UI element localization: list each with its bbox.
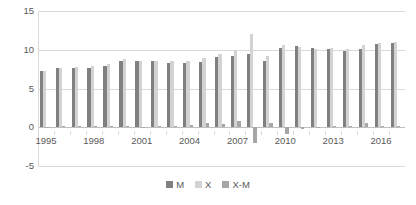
bar-x — [394, 42, 397, 127]
bar-x — [170, 61, 173, 127]
bar-dif — [46, 127, 49, 128]
x-tick-mark — [214, 131, 215, 135]
x-tick-mark — [389, 131, 390, 135]
x-axis-labels: 19951998200120042007201020132016 — [38, 136, 405, 152]
bar-dif — [206, 123, 209, 128]
legend-label: X-M — [232, 180, 249, 190]
bar-x — [186, 61, 189, 128]
bar-x — [234, 50, 237, 128]
x-tick-label-2007: 2007 — [227, 136, 248, 146]
legend-item-m[interactable]: M — [166, 180, 184, 190]
x-tick-mark — [198, 131, 199, 135]
y-tick-label-15: 15 — [4, 6, 34, 16]
bar-dif — [237, 121, 240, 127]
x-tick-label-2001: 2001 — [131, 136, 152, 146]
bar-x — [330, 48, 333, 127]
x-tick-mark — [341, 131, 342, 135]
x-tick-label-1995: 1995 — [35, 136, 56, 146]
x-tick-mark — [357, 131, 358, 135]
x-tick-mark — [166, 131, 167, 135]
bar-dif — [285, 127, 288, 134]
x-tick-label-1998: 1998 — [83, 136, 104, 146]
bar-dif — [142, 127, 145, 128]
x-tick-mark — [54, 131, 55, 135]
bar-dif — [301, 127, 304, 129]
bar-dif — [349, 126, 352, 128]
bar-x — [75, 67, 78, 127]
bar-x — [43, 71, 46, 127]
x-tick-label-2013: 2013 — [323, 136, 344, 146]
chart-legend: MXX-M — [0, 180, 416, 190]
legend-label: M — [176, 180, 184, 190]
y-tick-label-0: 0 — [4, 123, 34, 133]
bar-dif — [158, 126, 161, 127]
bar-dif — [365, 123, 368, 127]
bar-x — [250, 34, 253, 127]
x-tick-mark — [150, 131, 151, 135]
x-tick-mark — [293, 131, 294, 135]
legend-swatch-icon — [166, 181, 173, 188]
bar-dif — [190, 125, 193, 127]
bar-dif — [381, 126, 384, 127]
bar-dif — [269, 123, 272, 128]
bar-dif — [317, 127, 320, 128]
bar-x — [266, 56, 269, 127]
x-tick-mark — [261, 131, 262, 135]
x-tick-label-2016: 2016 — [370, 136, 391, 146]
bar-dif — [222, 124, 225, 127]
legend-item-x[interactable]: X — [195, 180, 211, 190]
x-tick-label-2004: 2004 — [179, 136, 200, 146]
x-tick-mark — [102, 131, 103, 135]
bar-x — [202, 58, 205, 128]
gridline--5 — [38, 166, 405, 167]
bar-x — [218, 54, 221, 128]
bar-dif — [126, 126, 129, 128]
bar-x — [378, 43, 381, 127]
bar-dif — [110, 126, 113, 128]
bar-x — [139, 61, 142, 128]
bar-dif — [174, 126, 177, 128]
bar-dif — [94, 126, 97, 128]
x-tick-mark — [118, 131, 119, 135]
legend-swatch-icon — [195, 181, 202, 188]
bar-chart: 151050-5 1995199820012004200720102013201… — [0, 0, 416, 205]
legend-swatch-icon — [222, 181, 229, 188]
y-tick-label-5: 5 — [4, 84, 34, 94]
x-tick-mark — [245, 131, 246, 135]
bar-x — [107, 64, 110, 127]
bar-dif — [62, 126, 65, 127]
x-tick-mark — [70, 131, 71, 135]
bar-x — [123, 59, 126, 127]
bar-dif — [333, 126, 336, 127]
bar-x — [91, 66, 94, 127]
y-tick-label--5: -5 — [4, 161, 34, 171]
y-tick-label-10: 10 — [4, 45, 34, 55]
legend-label: X — [205, 180, 211, 190]
bar-x — [298, 47, 301, 127]
bar-x — [154, 61, 157, 128]
bar-x — [346, 49, 349, 127]
bar-x — [282, 45, 285, 127]
bar-dif — [78, 126, 81, 127]
legend-item-xm[interactable]: X-M — [222, 180, 249, 190]
bar-x — [314, 49, 317, 127]
x-tick-label-2010: 2010 — [275, 136, 296, 146]
bar-dif — [397, 126, 400, 127]
bar-x — [362, 45, 365, 127]
y-axis-labels: 151050-5 — [0, 11, 34, 166]
x-tick-mark — [309, 131, 310, 135]
bar-x — [59, 68, 62, 128]
